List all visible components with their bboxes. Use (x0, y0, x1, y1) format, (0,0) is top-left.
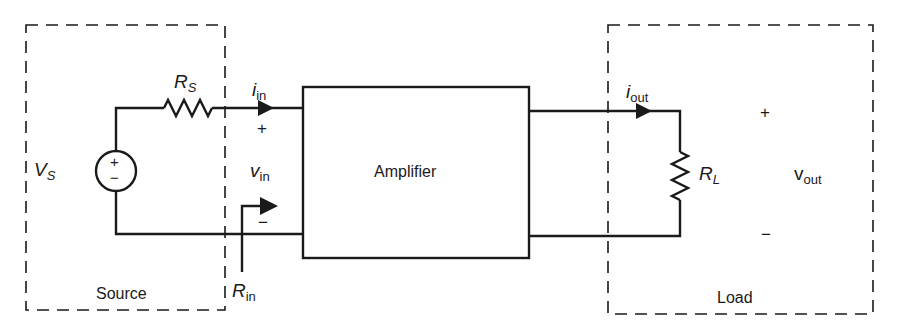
input-voltage-label: vin (250, 161, 270, 180)
source-voltage-label: VS (34, 160, 55, 179)
load-resistor-icon (672, 152, 688, 200)
vs-main: V (34, 159, 47, 180)
rin-sub: in (246, 289, 256, 304)
source-plus-sign: + (110, 154, 119, 169)
input-resistance-label: Rin (232, 281, 256, 300)
input-minus-sign: − (258, 214, 268, 231)
amplifier-label: Amplifier (374, 164, 436, 180)
vout-main: v (794, 163, 804, 184)
rs-sub: S (188, 80, 197, 95)
source-resistor-icon (164, 100, 212, 116)
rl-main: R (699, 163, 713, 184)
source-box-label: Source (96, 286, 147, 302)
vin-sub: in (260, 169, 270, 184)
input-plus-sign: + (257, 120, 267, 137)
load-box-label: Load (717, 290, 753, 306)
source-wires (116, 100, 303, 234)
vout-sub: out (804, 172, 822, 187)
output-current-arrow-icon (636, 103, 652, 119)
load-voltage-label: vout (794, 164, 822, 183)
vs-sub: S (47, 168, 56, 183)
source-minus-sign: − (110, 170, 119, 185)
rs-main: R (174, 71, 188, 92)
source-resistor-label: RS (174, 72, 196, 91)
load-minus-sign: − (761, 226, 771, 243)
iout-sub: out (630, 90, 648, 105)
input-current-label: iin (252, 80, 266, 99)
rin-main: R (232, 280, 246, 301)
rl-sub: L (713, 172, 720, 187)
load-plus-sign: + (760, 104, 770, 121)
vin-main: v (250, 160, 260, 181)
iin-sub: in (256, 88, 266, 103)
output-current-label: iout (626, 82, 648, 101)
load-resistor-label: RL (699, 164, 720, 183)
load-boundary-box (608, 25, 873, 314)
circuit-diagram (0, 0, 898, 332)
